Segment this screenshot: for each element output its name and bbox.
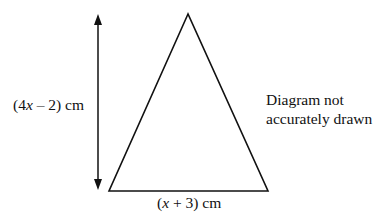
arrowhead-down-icon [94,179,102,190]
base-label: (x + 3) cm [157,194,221,212]
accuracy-note-line-1: Diagram not [266,91,372,110]
triangle-shape [109,14,268,191]
accuracy-note-line-2: accurately drawn [266,110,372,129]
accuracy-note: Diagram not accurately drawn [266,91,372,128]
height-arrow [94,14,102,190]
height-label: (4x – 2) cm [13,96,84,114]
arrowhead-up-icon [94,14,102,25]
